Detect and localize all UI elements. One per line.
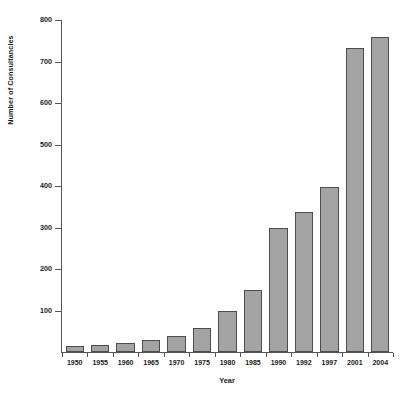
x-axis-tick-label: 1960 [113,359,138,367]
y-axis-label-wrapper: 100 [18,307,52,315]
y-axis-tick-label: 100 [22,307,52,314]
bar-slot [218,20,236,352]
bar[interactable] [346,48,364,352]
x-axis-tick-label: 1965 [138,359,163,367]
y-axis-tick [55,269,62,270]
bar-slot [244,20,262,352]
y-axis-label-wrapper: 700 [18,58,52,66]
bar[interactable] [269,228,287,353]
x-axis-tick [342,353,343,357]
y-axis-tick [55,20,62,21]
y-axis-tick-label: 500 [22,141,52,148]
bar[interactable] [167,336,185,352]
y-axis-title: Number of Consultancies [6,10,15,150]
y-axis-label-wrapper: 200 [18,265,52,273]
x-axis-tick-label: 1955 [87,359,112,367]
x-axis-tick [368,353,369,357]
x-axis-tick [317,353,318,357]
y-axis-tick [55,62,62,63]
x-axis-tick [138,353,139,357]
plot-area [62,20,393,352]
y-axis-tick-label: 200 [22,265,52,272]
x-axis-tick [62,353,63,357]
y-axis-label-wrapper: 500 [18,141,52,149]
x-axis-line [61,352,393,353]
bar-slot [91,20,109,352]
bar-slot [269,20,287,352]
x-axis-tick [215,353,216,357]
x-axis-tick-label: 2004 [368,359,393,367]
bar[interactable] [244,290,262,352]
y-axis-tick [55,228,62,229]
y-axis-label-wrapper: 800 [18,16,52,24]
bar[interactable] [142,340,160,352]
bar-slot [116,20,134,352]
bar[interactable] [91,345,109,352]
x-axis-tick-label: 1990 [266,359,291,367]
y-axis-tick-label: 700 [22,58,52,65]
y-axis-tick-label: 800 [22,16,52,23]
x-axis-tick-label: 1975 [189,359,214,367]
bar-slot [193,20,211,352]
bar-slot [66,20,84,352]
y-axis-tick-label: 300 [22,224,52,231]
bar-slot [295,20,313,352]
y-axis-tick-label: 600 [22,99,52,106]
x-axis-title: Year [61,376,393,385]
x-axis-tick-label: 1997 [317,359,342,367]
x-axis-tick-label: 2001 [342,359,367,367]
bar[interactable] [295,212,313,352]
x-axis-tick-label: 1985 [240,359,265,367]
bar[interactable] [218,311,236,353]
bar-slot [142,20,160,352]
x-axis-tick [87,353,88,357]
bar-chart-figure: Number of Consultancies 1002003004005006… [0,0,401,402]
x-axis-tick [113,353,114,357]
x-axis-tick [189,353,190,357]
y-axis-tick [55,311,62,312]
x-axis-tick-label: 1950 [62,359,87,367]
x-axis-tick-label: 1980 [215,359,240,367]
x-axis-tick [393,353,394,357]
y-axis-label-wrapper: 300 [18,224,52,232]
y-axis-tick [55,145,62,146]
x-axis-tick [291,353,292,357]
x-axis-tick [240,353,241,357]
x-axis-tick-label: 1970 [164,359,189,367]
y-axis-label-wrapper: 600 [18,99,52,107]
bar-slot [167,20,185,352]
y-axis-tick [55,186,62,187]
x-axis-tick [266,353,267,357]
x-axis-tick-label: 1992 [291,359,316,367]
bar[interactable] [371,37,389,352]
y-axis-tick [55,103,62,104]
bar-slot [346,20,364,352]
y-axis-tick-label: 400 [22,182,52,189]
bar[interactable] [320,187,338,352]
bar-slot [320,20,338,352]
bar[interactable] [66,346,84,352]
bar[interactable] [193,328,211,352]
bar[interactable] [116,343,134,352]
y-axis-label-wrapper: 400 [18,182,52,190]
bar-slot [371,20,389,352]
x-axis-tick [164,353,165,357]
